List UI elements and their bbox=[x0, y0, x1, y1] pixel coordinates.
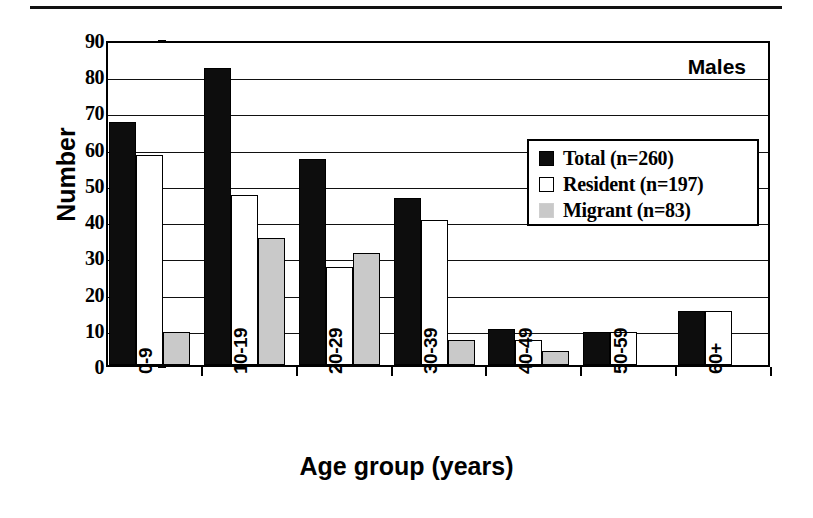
y-axis-tick-label: 90 bbox=[58, 31, 104, 51]
x-axis-tick-label: 60+ bbox=[705, 284, 725, 374]
bar-40-49-total bbox=[488, 329, 515, 365]
legend-item-label: Resident (n=197) bbox=[563, 174, 703, 194]
bar-10-19-total bbox=[204, 68, 231, 365]
legend-item: Resident (n=197) bbox=[539, 171, 757, 197]
y-axis-tick-labels: 0102030405060708090 bbox=[58, 20, 104, 390]
bar-40-49-migrant bbox=[542, 351, 569, 365]
y-axis-tick-label: 60 bbox=[58, 140, 104, 160]
y-axis-tick-label: 40 bbox=[58, 212, 104, 232]
top-divider-rule bbox=[30, 6, 782, 9]
chart-legend: Total (n=260)Resident (n=197)Migrant (n=… bbox=[527, 139, 759, 226]
legend-item: Migrant (n=83) bbox=[539, 197, 757, 223]
x-axis-tick-mark bbox=[770, 367, 772, 376]
open-white-square-icon bbox=[539, 177, 554, 192]
y-axis-tick-label: 0 bbox=[58, 357, 104, 377]
x-axis-tick-mark bbox=[201, 367, 203, 376]
x-axis-tick-mark bbox=[580, 367, 582, 376]
x-axis-tick-label: 50-59 bbox=[610, 284, 630, 374]
y-axis-tick-label: 20 bbox=[58, 285, 104, 305]
panel-label: Males bbox=[688, 55, 746, 79]
bar-0-9-total bbox=[109, 122, 136, 365]
bar-50-59-total bbox=[583, 332, 610, 365]
x-axis-tick-mark bbox=[485, 367, 487, 376]
x-axis-tick-label: 40-49 bbox=[515, 284, 535, 374]
y-axis-tick-label: 80 bbox=[58, 67, 104, 87]
bar-20-29-total bbox=[299, 159, 326, 365]
y-axis-tick-label: 30 bbox=[58, 248, 104, 268]
x-axis-tick-label: 10-19 bbox=[230, 284, 250, 374]
x-axis-tick-label: 0-9 bbox=[135, 284, 155, 374]
bar-60plus-total bbox=[678, 311, 705, 365]
x-axis-tick-mark bbox=[296, 367, 298, 376]
bar-30-39-migrant bbox=[448, 340, 475, 365]
legend-item: Total (n=260) bbox=[539, 145, 757, 171]
x-axis-tick-mark bbox=[675, 367, 677, 376]
legend-item-label: Total (n=260) bbox=[563, 148, 674, 168]
chart-figure: Number 0102030405060708090 Males 0-910-1… bbox=[0, 0, 813, 518]
bar-0-9-migrant bbox=[163, 332, 190, 365]
x-axis-tick-mark bbox=[391, 367, 393, 376]
y-axis-tick-label: 50 bbox=[58, 176, 104, 196]
x-axis-tick-label: 20-29 bbox=[325, 284, 345, 374]
y-axis-tick-label: 70 bbox=[58, 103, 104, 123]
x-axis-tick-label: 30-39 bbox=[420, 284, 440, 374]
bar-10-19-migrant bbox=[258, 238, 285, 365]
bar-20-29-migrant bbox=[353, 253, 380, 365]
filled-black-square-icon bbox=[539, 151, 554, 166]
filled-gray-square-icon bbox=[539, 203, 554, 218]
x-axis-title: Age group (years) bbox=[0, 452, 813, 481]
y-axis-tick-label: 10 bbox=[58, 321, 104, 341]
legend-item-label: Migrant (n=83) bbox=[563, 200, 691, 220]
bar-30-39-total bbox=[394, 198, 421, 365]
